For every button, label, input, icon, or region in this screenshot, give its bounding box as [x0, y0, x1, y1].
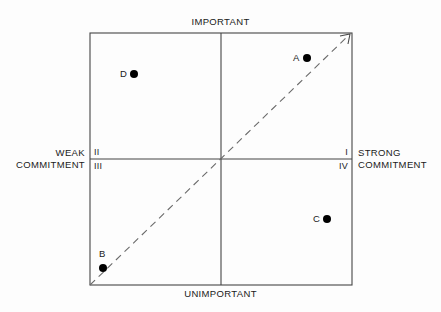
data-point-a[interactable]: [303, 54, 311, 62]
quadrant-label-i: I: [316, 147, 348, 157]
data-point-label-c: C: [313, 214, 320, 224]
axis-label-top: IMPORTANT: [0, 16, 441, 28]
quadrant-label-ii: II: [94, 147, 100, 157]
data-point-b[interactable]: [99, 264, 107, 272]
data-point-c[interactable]: [323, 215, 331, 223]
data-point-label-d: D: [120, 69, 127, 79]
data-point-label-b: B: [99, 249, 106, 259]
quadrant-label-iv: IV: [316, 161, 348, 171]
axis-label-right: STRONG COMMITMENT: [358, 147, 441, 170]
quadrant-chart-figure: IMPORTANT UNIMPORTANT WEAK COMMITMENT ST…: [0, 0, 441, 312]
data-point-d[interactable]: [130, 70, 138, 78]
axis-label-bottom: UNIMPORTANT: [0, 288, 441, 300]
axis-label-left: WEAK COMMITMENT: [0, 147, 85, 170]
diagonal-trend-line: [90, 36, 348, 285]
quadrant-label-iii: III: [94, 161, 102, 171]
data-point-label-a: A: [293, 53, 300, 63]
